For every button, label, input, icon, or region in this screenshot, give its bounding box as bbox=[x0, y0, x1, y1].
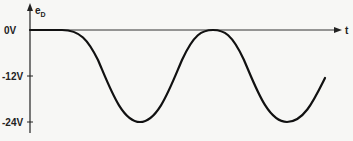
xlabel: t bbox=[345, 25, 349, 36]
signal-curve bbox=[30, 30, 325, 122]
y-axis-arrow-icon bbox=[27, 3, 33, 11]
ytick-label-1: -12V bbox=[2, 71, 23, 82]
chart: eD 0V -12V -24V t bbox=[0, 0, 353, 141]
x-axis-arrow-icon bbox=[334, 27, 342, 33]
ylabel: eD bbox=[35, 5, 46, 18]
ytick-label-2: -24V bbox=[2, 117, 23, 128]
ytick-label-0: 0V bbox=[4, 25, 17, 36]
